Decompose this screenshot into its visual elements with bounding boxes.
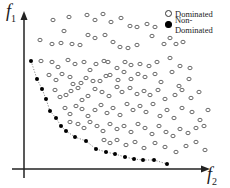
dominated-point xyxy=(150,132,154,135)
open-circle-icon xyxy=(165,10,172,17)
dominated-point xyxy=(118,45,122,48)
dominated-point xyxy=(93,87,97,90)
dominated-point xyxy=(165,108,169,111)
dominated-point xyxy=(181,40,185,43)
dominated-point xyxy=(180,106,184,109)
dominated-point xyxy=(128,86,132,89)
dominated-point xyxy=(164,130,168,133)
dominated-point xyxy=(180,88,184,91)
dominated-point xyxy=(131,108,135,111)
dominated-point xyxy=(151,102,155,105)
dominated-point xyxy=(194,126,198,129)
dominated-point xyxy=(136,72,140,75)
dominated-point xyxy=(203,148,207,151)
dominated-point xyxy=(82,126,86,129)
dominated-point xyxy=(163,97,167,100)
non-dominated-point xyxy=(40,87,44,91)
dominated-point xyxy=(73,62,77,65)
dominated-point xyxy=(159,80,163,83)
dominated-point xyxy=(108,141,112,144)
dominated-point xyxy=(74,104,78,107)
dominated-point xyxy=(119,16,123,19)
dominated-point xyxy=(189,96,193,99)
non-dominated-point xyxy=(73,135,77,139)
dominated-point xyxy=(122,70,126,73)
dominated-point xyxy=(100,90,104,93)
dominated-point xyxy=(186,131,190,134)
dominated-point xyxy=(122,124,126,127)
dominated-point xyxy=(107,94,111,97)
non-dominated-point xyxy=(35,77,39,81)
dominated-point xyxy=(188,66,192,69)
dominated-point xyxy=(128,24,132,27)
dominated-point xyxy=(158,114,162,117)
dominated-point xyxy=(147,64,151,67)
dominated-point xyxy=(68,112,72,115)
dominated-point xyxy=(88,68,92,71)
dominated-point xyxy=(170,70,174,73)
dominated-point xyxy=(101,129,105,132)
dominated-point xyxy=(63,106,67,109)
dominated-point xyxy=(106,60,110,63)
dominated-point xyxy=(103,33,107,36)
non-dominated-point xyxy=(141,158,145,162)
dominated-point xyxy=(53,88,57,91)
non-dominated-point xyxy=(94,147,98,151)
dominated-point xyxy=(64,93,68,96)
dominated-point xyxy=(133,140,137,143)
dominated-point xyxy=(206,108,210,111)
dominated-point xyxy=(71,82,75,85)
dominated-point xyxy=(156,88,160,91)
dominated-point xyxy=(177,84,181,87)
legend-label: Non-Dominated xyxy=(175,15,230,35)
dominated-point xyxy=(56,65,60,68)
dominated-point xyxy=(93,108,97,111)
dominated-point xyxy=(118,113,122,116)
dominated-point xyxy=(190,110,194,113)
dominated-point xyxy=(91,79,95,82)
dominated-point xyxy=(78,43,82,46)
dominated-point xyxy=(125,102,129,105)
dominated-point xyxy=(86,33,90,36)
dominated-point xyxy=(111,106,115,109)
dominated-point xyxy=(54,78,58,81)
dominated-point xyxy=(143,75,147,78)
dominated-point xyxy=(173,93,177,96)
dominated-point xyxy=(174,150,178,153)
non-dominated-point xyxy=(84,139,88,143)
dominated-point xyxy=(168,36,172,39)
dominated-point xyxy=(79,81,83,84)
dominated-point xyxy=(67,15,71,18)
dominated-point xyxy=(94,62,98,65)
dominated-point xyxy=(76,86,80,89)
dominated-point xyxy=(129,77,133,80)
dominated-point xyxy=(59,41,63,44)
dominated-point xyxy=(111,40,115,43)
dominated-point xyxy=(197,90,201,93)
dominated-point xyxy=(68,75,72,78)
dominated-point xyxy=(129,130,133,133)
non-dominated-point xyxy=(113,152,117,156)
dominated-point xyxy=(102,59,106,62)
non-dominated-point xyxy=(29,59,33,63)
dominated-point xyxy=(80,107,84,110)
dominated-point xyxy=(124,143,128,146)
non-dominated-point xyxy=(104,150,108,154)
dominated-point xyxy=(174,42,178,45)
dominated-point xyxy=(163,145,167,148)
dominated-point xyxy=(76,122,80,125)
dominated-point xyxy=(50,60,54,63)
dominated-point xyxy=(104,74,108,77)
dominated-point xyxy=(69,89,73,92)
dominated-point xyxy=(144,110,148,113)
dominated-point xyxy=(178,127,182,130)
dominated-point xyxy=(172,116,176,119)
dominated-point xyxy=(142,146,146,149)
non-dominated-point xyxy=(152,158,156,162)
dominated-point xyxy=(115,127,119,130)
dominated-point xyxy=(95,124,99,127)
dominated-point xyxy=(138,62,142,65)
dominated-point xyxy=(153,72,157,75)
dominated-point xyxy=(66,58,70,61)
x-axis-label: f2 xyxy=(207,164,217,187)
